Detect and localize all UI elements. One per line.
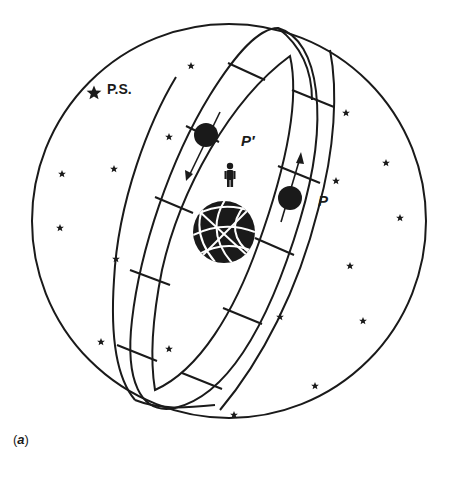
star-icon bbox=[165, 133, 173, 140]
star-icon bbox=[396, 214, 404, 221]
band-division bbox=[130, 270, 170, 285]
band-division bbox=[223, 308, 262, 324]
planet-p-prime bbox=[185, 112, 220, 181]
star-icon bbox=[58, 170, 66, 177]
figure-caption: (a) bbox=[13, 432, 29, 447]
star-icon bbox=[311, 382, 319, 389]
star-icon bbox=[346, 262, 354, 269]
band-division bbox=[228, 63, 265, 80]
star-icon bbox=[110, 165, 118, 172]
celestial-sphere-diagram bbox=[0, 0, 456, 482]
band-division bbox=[278, 166, 320, 183]
star-icon bbox=[359, 317, 367, 324]
band-division bbox=[182, 373, 222, 389]
pole-star-label: P.S. bbox=[107, 81, 132, 97]
star-icon bbox=[97, 338, 105, 345]
figure-caption-letter: a bbox=[17, 432, 24, 447]
star-icon bbox=[56, 224, 64, 231]
band-division bbox=[155, 197, 193, 213]
earth bbox=[193, 200, 255, 263]
pole-star-icon bbox=[87, 85, 102, 99]
star-icon bbox=[342, 109, 350, 116]
planet-p bbox=[278, 152, 304, 222]
band-division bbox=[255, 238, 294, 255]
planet-p-prime-label: P′ bbox=[241, 132, 255, 149]
star-icon bbox=[382, 159, 390, 166]
star-icon bbox=[332, 177, 340, 184]
observer-figure bbox=[225, 163, 236, 187]
band-division bbox=[292, 90, 334, 107]
band-front-left-edge bbox=[113, 77, 176, 400]
band-division bbox=[117, 345, 157, 361]
star-icon bbox=[165, 345, 173, 352]
planet-p-label: P bbox=[318, 192, 328, 209]
star-icon bbox=[187, 62, 195, 69]
